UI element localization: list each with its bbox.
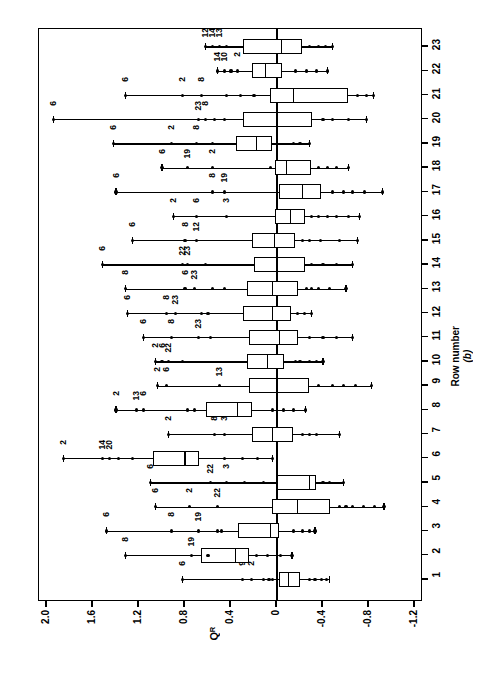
box-iqr — [247, 354, 284, 369]
outlier-point — [296, 312, 299, 315]
category-axis-tick — [422, 506, 428, 507]
median-line — [276, 257, 277, 272]
category-axis-tick — [422, 409, 428, 410]
outlier-point — [186, 408, 189, 411]
outlier-point — [342, 481, 345, 484]
outlier-point — [301, 239, 304, 242]
outlier-point — [117, 457, 120, 460]
outlier-point — [142, 336, 145, 339]
value-axis-label: Qᴿ — [208, 627, 220, 641]
boxplot-row-5: 6223 — [39, 472, 421, 494]
boxplot-row-12: 6823 — [39, 303, 421, 325]
outlier-point — [338, 505, 341, 508]
outlier-point — [338, 433, 341, 436]
value-axis-tick-label: 0.4 — [224, 610, 235, 624]
outlier-point — [229, 69, 232, 72]
outlier-point — [305, 69, 308, 72]
boxplot-row-9: 2613 — [39, 375, 421, 397]
median-line — [184, 451, 185, 466]
outlier-point — [206, 312, 209, 315]
category-axis-tick — [422, 142, 428, 143]
outlier-point — [241, 457, 244, 460]
outlier-point — [342, 384, 345, 387]
outlier-point — [256, 457, 259, 460]
outlier-point — [112, 142, 115, 145]
outlier-point — [255, 554, 258, 557]
outlier-point — [294, 360, 297, 363]
outlier-point — [317, 166, 320, 169]
box-iqr — [279, 572, 300, 587]
category-axis-tick — [422, 554, 428, 555]
outlier-point — [183, 287, 186, 290]
outlier-point — [165, 384, 168, 387]
outlier-point — [250, 578, 253, 581]
boxplot-row-14: 62223 — [39, 254, 421, 276]
outlier-point — [225, 45, 228, 48]
category-axis-tick — [422, 312, 428, 313]
outlier-point — [365, 118, 368, 121]
value-axis-tick — [45, 601, 46, 607]
outlier-point — [216, 69, 219, 72]
outlier-point — [269, 166, 272, 169]
outlier-point — [310, 215, 313, 218]
outlier-point — [181, 578, 184, 581]
whisker-line — [107, 531, 315, 532]
outlier-point — [373, 505, 376, 508]
value-axis-tick — [183, 601, 184, 607]
outlier-point — [310, 312, 313, 315]
outlier-point — [236, 69, 239, 72]
median-line — [281, 39, 282, 54]
outlier-point — [165, 312, 168, 315]
outlier-point — [225, 481, 228, 484]
outlier-point — [342, 190, 345, 193]
outlier-point — [105, 529, 108, 532]
boxplot-row-6: 21420 — [39, 448, 421, 470]
value-axis-tick — [275, 601, 276, 607]
boxplot-row-2: 819 — [39, 545, 421, 567]
whisker-line — [102, 264, 353, 265]
category-axis-tick-label: 7 — [431, 427, 442, 433]
value-axis-tick-label: 0.8 — [178, 610, 189, 624]
box-iqr — [272, 499, 330, 514]
outlier-point — [321, 118, 324, 121]
box-iqr — [254, 257, 305, 272]
median-line — [276, 112, 277, 127]
boxplot-row-21: 628 — [39, 85, 421, 107]
outlier-point — [354, 384, 357, 387]
outlier-point — [174, 312, 177, 315]
outlier-point — [326, 69, 329, 72]
outlier-point — [101, 263, 104, 266]
median-line — [288, 572, 289, 587]
value-axis-tick — [229, 601, 230, 607]
boxplot-row-18: 6192 — [39, 157, 421, 179]
outlier-point — [262, 481, 265, 484]
value-axis-tick-label: -1.2 — [408, 610, 419, 627]
outlier-point — [308, 45, 311, 48]
category-axis-tick-label: 21 — [431, 88, 442, 99]
category-axis-tick-label: 20 — [431, 112, 442, 123]
outlier-point — [101, 457, 104, 460]
value-axis-tick-label: 1.2 — [132, 610, 143, 624]
outlier-point — [290, 554, 293, 557]
outlier-point — [344, 505, 347, 508]
outlier-point — [298, 142, 301, 145]
category-axis-tick — [422, 578, 428, 579]
outlier-point — [206, 554, 209, 557]
category-axis-tick — [422, 530, 428, 531]
box-iqr — [236, 136, 273, 151]
category-axis-tick — [422, 336, 428, 337]
outlier-point — [331, 45, 334, 48]
outlier-point — [209, 336, 212, 339]
outlier-point — [331, 118, 334, 121]
category-axis-tick-label: 22 — [431, 63, 442, 74]
outlier-point — [381, 190, 384, 193]
category-axis-tick-label: 17 — [431, 184, 442, 195]
outlier-point — [170, 529, 173, 532]
median-line — [272, 427, 273, 442]
outlier-point — [197, 336, 200, 339]
outlier-point — [301, 529, 304, 532]
outlier-point — [338, 239, 341, 242]
outlier-point — [331, 384, 334, 387]
outlier-point — [223, 69, 226, 72]
value-axis-tick-label: -0.4 — [316, 610, 327, 627]
